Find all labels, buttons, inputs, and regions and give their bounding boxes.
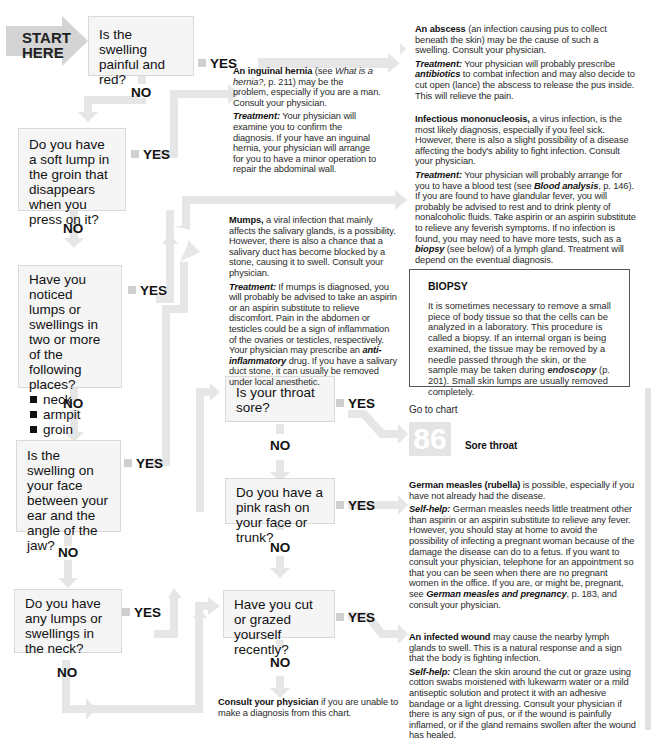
no-label-q4[interactable]: NO <box>58 545 78 560</box>
outcome-consult-physician: Consult your physician if you are unable… <box>218 697 408 721</box>
arrowhead-q6-yes <box>398 424 408 444</box>
page-edge-strip <box>645 388 651 730</box>
yes-label-q4[interactable]: YES <box>124 456 163 471</box>
yes-text: YES <box>348 610 375 625</box>
treatment-text: If mumps is diagnosed, you will probably… <box>229 282 397 356</box>
arrowhead-throat <box>210 383 220 401</box>
arrowhead-q7-yes <box>398 495 408 515</box>
outcome-mumps: Mumps, a viral infection that mainly aff… <box>229 215 397 391</box>
no-label-q7[interactable]: NO <box>270 540 290 555</box>
start-line-2: HERE <box>22 45 71 60</box>
no-text: NO <box>270 438 290 453</box>
chart-number-badge[interactable]: 86 <box>409 422 451 456</box>
outcome-title: An infected wound <box>409 632 490 642</box>
question-neck-lumps[interactable]: Do you have any lumps or swellings in th… <box>14 589 122 653</box>
outcome-title: Mumps, <box>229 215 264 225</box>
yes-text: YES <box>134 605 161 620</box>
yes-label-q8[interactable]: YES <box>336 610 375 625</box>
question-text: Do you have a soft lump in the groin tha… <box>29 137 109 227</box>
bullet-groin: groin <box>29 422 111 437</box>
arrowhead-q1-no <box>78 112 98 122</box>
no-text: NO <box>63 221 83 236</box>
self-help-text: German measles needs little treatment ot… <box>409 504 634 599</box>
link-biopsy[interactable]: biopsy <box>415 244 444 254</box>
go-to-chart-prefix: Go to chart <box>409 405 457 416</box>
question-groin-lump[interactable]: Do you have a soft lump in the groin tha… <box>18 128 126 211</box>
yes-text: YES <box>143 147 170 162</box>
question-face-swelling[interactable]: Is the swelling on your face between you… <box>16 440 121 532</box>
start-here-label: START HERE <box>22 30 71 60</box>
biopsy-info-box: BIOPSY It is sometimes necessary to remo… <box>409 269 630 387</box>
arrowhead-q7-no <box>270 568 290 578</box>
arrow-to-cut <box>195 602 210 613</box>
question-pink-rash[interactable]: Do you have a pink rash on your face or … <box>225 478 335 524</box>
pointer-abscess <box>400 43 406 55</box>
biopsy-text: It is sometimes necessary to remove a sm… <box>428 301 611 397</box>
question-text: Is the swelling on your face between you… <box>27 448 108 553</box>
arrowhead-mumps <box>188 240 200 258</box>
outcome-title: An inguinal hernia <box>233 66 312 76</box>
yes-text: YES <box>140 283 167 298</box>
question-cut-grazed[interactable]: Have you cut or grazed yourself recently… <box>223 590 335 638</box>
treatment-label: Treatment: <box>229 282 276 292</box>
outcome-infected-wound: An infected wound may cause the nearby l… <box>409 632 637 742</box>
yes-text: YES <box>348 396 375 411</box>
arrowhead-cut <box>208 597 220 615</box>
self-help-label: Self-help: <box>409 504 450 514</box>
no-text: NO <box>131 85 151 100</box>
biopsy-body: It is sometimes necessary to remove a sm… <box>428 301 611 375</box>
no-label-q5[interactable]: NO <box>57 665 77 680</box>
arrow-q4-no <box>64 560 72 580</box>
start-line-1: START <box>22 30 71 45</box>
outcome-title: Consult your physician <box>218 697 319 707</box>
arrowhead-q4-no <box>58 578 78 588</box>
yes-label-q3[interactable]: YES <box>128 283 167 298</box>
outcome-title: Infectious mononucleosis, <box>415 114 530 124</box>
no-label-q2[interactable]: NO <box>63 221 83 236</box>
yes-label-q5[interactable]: YES <box>122 605 161 620</box>
yes-label-q1[interactable]: YES <box>198 56 237 71</box>
yes-label-q6[interactable]: YES <box>336 396 375 411</box>
link-german-measles-pregnancy[interactable]: German measles and pregnancy <box>426 589 566 599</box>
arrowhead-q5-yes <box>168 588 182 598</box>
outcome-title: An abscess <box>415 24 466 34</box>
arrow-q8-no <box>276 676 284 690</box>
self-help-text: Clean the skin around the cut or graze u… <box>409 667 636 741</box>
arrow-q7-no <box>276 556 284 570</box>
yes-label-q7[interactable]: YES <box>336 498 375 513</box>
link-blood-analysis[interactable]: Blood analysis <box>534 181 598 191</box>
outcome-german-measles: German measles (rubella) is possible, es… <box>409 480 637 613</box>
outcome-abscess: An abscess (an infection causing pus to … <box>415 24 635 104</box>
outcome-hernia: An inguinal hernia (see What is a hernia… <box>233 66 381 178</box>
treatment-text: Your physician will probably prescribe <box>462 59 615 69</box>
question-swelling-painful[interactable]: Is the swelling painful and red? <box>88 16 194 76</box>
biopsy-heading: BIOPSY <box>428 280 611 292</box>
arrow-to-throat <box>196 388 210 512</box>
question-text: Do you have any lumps or swellings in th… <box>25 596 102 656</box>
no-label-q1[interactable]: NO <box>131 85 151 100</box>
no-text: NO <box>63 396 83 411</box>
no-label-q8[interactable]: NO <box>270 655 290 670</box>
arrowhead-mono-mid <box>395 190 407 210</box>
no-text: NO <box>270 540 290 555</box>
arrowhead-q1-yes <box>388 53 400 73</box>
arrow-q6-no <box>276 460 284 474</box>
treatment-label: Treatment: <box>415 59 462 69</box>
no-label-q3[interactable]: NO <box>63 396 83 411</box>
outcome-title: German measles (rubella) <box>409 480 520 490</box>
outcome-mononucleosis: Infectious mononucleosis, a virus infect… <box>415 114 637 268</box>
treatment-label: Treatment: <box>415 170 462 180</box>
arrowhead-q3-up <box>162 234 178 244</box>
no-label-q6[interactable]: NO <box>270 438 290 453</box>
chart-title-sore-throat[interactable]: Sore throat <box>465 441 517 452</box>
arrowhead-q2-no <box>64 238 84 248</box>
treatment-text-end: (see below) of a lymph gland. Treatment … <box>415 244 624 265</box>
outcome-body: (see <box>312 66 335 76</box>
no-text: NO <box>270 655 290 670</box>
link-antibiotics[interactable]: antibiotics <box>415 69 460 79</box>
link-endoscopy[interactable]: endoscopy <box>547 365 596 375</box>
self-help-label: Self-help: <box>409 667 450 677</box>
question-multiple-lumps[interactable]: Have you noticed lumps or swellings in t… <box>18 265 122 388</box>
yes-label-q2[interactable]: YES <box>131 147 170 162</box>
treatment-label: Treatment: <box>233 111 280 121</box>
